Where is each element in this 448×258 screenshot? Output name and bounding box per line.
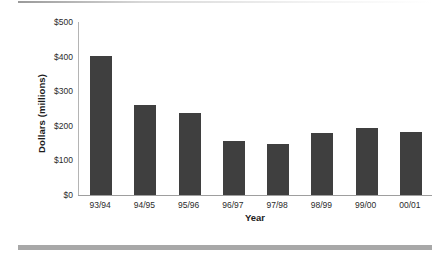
bottom-divider-rule <box>18 245 432 250</box>
y-tick-label: $300 <box>54 86 73 96</box>
x-axis-title: Year <box>78 212 432 223</box>
bar-slot <box>134 22 156 195</box>
bar <box>223 141 245 195</box>
x-tick-label: 93/94 <box>78 200 122 210</box>
y-axis-title: Dollars (millions) <box>36 29 47 199</box>
y-tick-label: $100 <box>54 155 73 165</box>
x-tick-label: 97/98 <box>255 200 299 210</box>
bar <box>400 132 422 195</box>
y-tick-label: $500 <box>54 17 73 27</box>
x-tick-label: 96/97 <box>211 200 255 210</box>
x-tick-label: 95/96 <box>167 200 211 210</box>
bar-slot <box>223 22 245 195</box>
bar-slot <box>179 22 201 195</box>
x-tick-label: 99/00 <box>344 200 388 210</box>
x-tick-label: 98/99 <box>299 200 343 210</box>
bar-slot <box>267 22 289 195</box>
bar <box>179 113 201 195</box>
x-tick-label: 94/95 <box>122 200 166 210</box>
plot-area: $0$100$200$300$400$500 93/9494/9595/9696… <box>78 22 432 195</box>
bar-slot <box>400 22 422 195</box>
y-tick-label: $200 <box>54 121 73 131</box>
bar-chart-figure: Dollars (millions) $0$100$200$300$400$50… <box>0 0 448 258</box>
bar-series <box>79 22 432 195</box>
bar <box>267 144 289 195</box>
top-divider-rule <box>18 1 432 3</box>
bar <box>90 56 112 195</box>
bar-slot <box>311 22 333 195</box>
bar-slot <box>90 22 112 195</box>
x-tick-label: 00/01 <box>388 200 432 210</box>
y-tick-label: $0 <box>64 190 73 200</box>
y-tick-label: $400 <box>54 52 73 62</box>
bar <box>311 133 333 195</box>
x-axis-line <box>78 195 432 196</box>
bar <box>134 105 156 195</box>
bar <box>356 128 378 195</box>
bar-slot <box>356 22 378 195</box>
